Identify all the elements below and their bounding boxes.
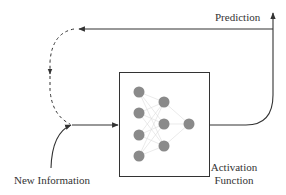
prediction-label: Prediction <box>215 11 260 24</box>
output-to-prediction-path <box>210 13 274 125</box>
dashed-feedback-arc-bottom <box>50 76 70 124</box>
new-information-curve <box>51 125 71 168</box>
hidden-node <box>159 97 170 108</box>
activation-label-line2: Function <box>209 174 259 187</box>
new-information-label: New Information <box>14 174 90 187</box>
input-node <box>134 108 145 119</box>
input-node <box>134 151 145 162</box>
dashed-feedback-arc-top <box>50 29 74 74</box>
output-layer <box>184 119 195 130</box>
input-node <box>134 130 145 141</box>
hidden-node <box>159 119 170 130</box>
input-node <box>134 87 145 98</box>
output-node <box>184 119 195 130</box>
hidden-node <box>159 141 170 152</box>
hidden-layer <box>159 97 170 152</box>
activation-label-line1: Activation <box>209 161 259 174</box>
activation-function-label: Activation Function <box>209 161 259 187</box>
